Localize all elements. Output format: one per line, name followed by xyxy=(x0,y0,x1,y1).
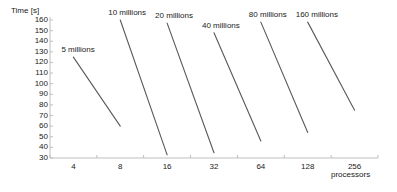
series-line xyxy=(261,22,308,132)
series-line xyxy=(308,22,355,110)
series-line xyxy=(214,33,261,141)
plot-area xyxy=(0,0,397,192)
axis-tick-marks xyxy=(50,20,378,158)
series-lines xyxy=(73,20,354,155)
series-line xyxy=(167,23,214,153)
chart-container: Time [s] processors 16015014013012011010… xyxy=(0,0,397,192)
axis-lines xyxy=(50,17,378,158)
series-line xyxy=(73,57,120,126)
series-line xyxy=(120,20,167,155)
